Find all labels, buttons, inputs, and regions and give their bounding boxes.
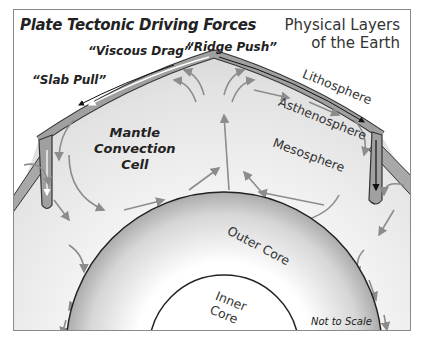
mantle-cell-line-2: Convection — [94, 141, 176, 157]
subtitle-line-1: Physical Layers — [285, 16, 400, 34]
label-viscous-drag: “Viscous Drag” — [88, 44, 192, 58]
mantle-cell-line-1: Mantle — [94, 125, 176, 141]
earth-cross-section — [14, 10, 410, 330]
label-not-to-scale: Not to Scale — [311, 316, 372, 327]
subtitle-line-2: of the Earth — [285, 34, 400, 52]
diagram-frame: Plate Tectonic Driving Forces Physical L… — [13, 9, 411, 331]
label-slab-pull: “Slab Pull” — [32, 73, 106, 87]
label-ridge-push: “Ridge Push” — [186, 40, 277, 54]
diagram-title: Plate Tectonic Driving Forces — [20, 16, 256, 34]
diagram-subtitle: Physical Layers of the Earth — [285, 16, 400, 52]
mantle-cell-line-3: Cell — [94, 157, 176, 173]
label-mantle-convection-cell: Mantle Convection Cell — [94, 125, 176, 173]
